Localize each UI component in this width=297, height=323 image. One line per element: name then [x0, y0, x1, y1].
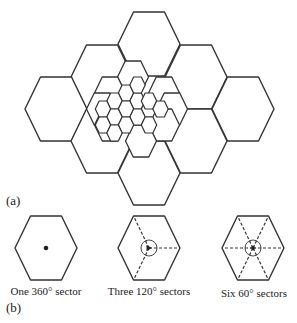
small-cell-hexagon: [153, 101, 168, 117]
sector-examples: [15, 216, 284, 280]
small-cell-hexagon: [141, 117, 156, 133]
caption-three-sectors: Three 120° sectors: [108, 285, 191, 297]
panel-b-label: (b): [6, 300, 21, 316]
caption-one-sector: One 360° sector: [11, 285, 82, 297]
omni-antenna-icon: [44, 246, 49, 251]
small-cell-hexagon: [130, 77, 145, 93]
caption-six-sectors: Six 60° sectors: [221, 287, 287, 299]
cellular-hexagon-diagram: [0, 0, 297, 323]
panel-a-label: (a): [6, 193, 20, 209]
small-cell-hexagon: [107, 125, 122, 141]
